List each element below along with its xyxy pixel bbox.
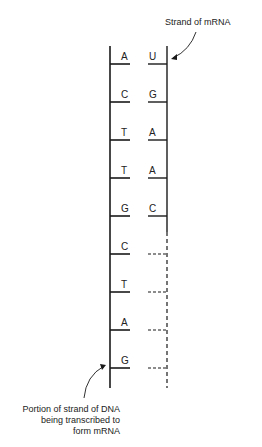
mrna-label: Strand of mRNA bbox=[165, 17, 231, 28]
mrna-base-3: A bbox=[149, 127, 156, 138]
mrna-base-4: A bbox=[149, 165, 156, 176]
dna-base-5: G bbox=[121, 203, 129, 214]
mrna-arrowhead-icon bbox=[171, 54, 177, 60]
dna-pointer-arrow bbox=[84, 366, 104, 398]
dna-base-4: T bbox=[121, 165, 127, 176]
dna-base-6: C bbox=[121, 241, 128, 252]
dna-label-line2: being transcribed to bbox=[2, 415, 120, 426]
dna-arrowhead-icon bbox=[100, 364, 106, 370]
mrna-base-5: C bbox=[149, 203, 156, 214]
dna-label-line1: Portion of strand of DNA bbox=[2, 404, 120, 415]
mrna-rungs bbox=[148, 64, 167, 216]
dna-base-9: G bbox=[121, 355, 129, 366]
dna-base-1: A bbox=[121, 51, 128, 62]
dna-base-3: T bbox=[121, 127, 127, 138]
dna-label: Portion of strand of DNA being transcrib… bbox=[2, 404, 120, 437]
mrna-pointer-arrow bbox=[173, 32, 196, 58]
dna-base-8: A bbox=[121, 317, 128, 328]
dna-transcription-diagram bbox=[0, 0, 262, 447]
dna-base-7: T bbox=[121, 279, 127, 290]
mrna-base-1: U bbox=[149, 51, 156, 62]
mrna-pending-rungs bbox=[148, 254, 167, 368]
dna-label-line3: form mRNA bbox=[2, 426, 120, 437]
mrna-base-2: G bbox=[149, 89, 157, 100]
dna-base-2: C bbox=[121, 89, 128, 100]
